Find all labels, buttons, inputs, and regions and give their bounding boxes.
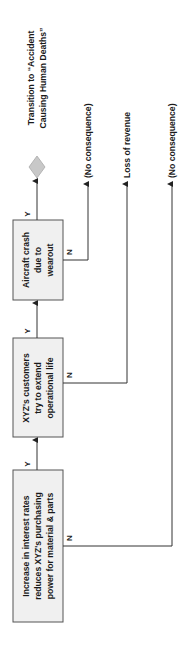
event2-line1: XYZ's customers xyxy=(21,353,31,423)
outcome-3-label: (No consequence) xyxy=(167,103,177,178)
event3-no-connector xyxy=(63,184,88,260)
transition-diamond-icon xyxy=(29,156,45,178)
event2-yes-label: Y xyxy=(23,328,32,334)
outcome-2-label: Loss of revenue xyxy=(122,112,132,178)
event1-line3: power for material & parts xyxy=(45,493,55,600)
event1-line1: Increase in interest rates xyxy=(21,495,31,596)
transition-line1: Transition to “Accident xyxy=(26,31,36,126)
event3-no-label: N xyxy=(65,249,74,255)
event2-no-connector xyxy=(63,184,127,383)
event-tree-diagram: Increase in interest rates reduces XYZ's… xyxy=(0,0,181,647)
transition-line2: Causing Human Deaths” xyxy=(38,28,48,129)
outcome-1-label: (No consequence) xyxy=(83,103,93,178)
event3-line1: Aircraft crash xyxy=(21,232,31,288)
event1-yes-label: Y xyxy=(23,461,32,467)
event3-yes-label: Y xyxy=(23,211,32,217)
event2-no-label: N xyxy=(65,372,74,378)
event1-no-label: N xyxy=(65,535,74,541)
event2-line2: try to extend xyxy=(33,362,43,414)
event1-no-connector xyxy=(63,184,172,546)
event2-line3: operational life xyxy=(45,357,55,418)
event3-line2: due to xyxy=(33,247,43,273)
event1-line2: reduces XYZ's purchasing xyxy=(33,492,43,600)
event3-line3: wearout xyxy=(45,243,55,277)
